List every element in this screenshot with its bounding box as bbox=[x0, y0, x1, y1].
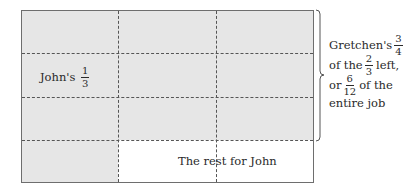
fraction-three-fourths: 3 4 bbox=[394, 34, 402, 57]
johns-third-label: John's 1 3 bbox=[40, 66, 89, 89]
grid-line-horizontal-2 bbox=[22, 97, 313, 98]
grid-line-horizontal-3 bbox=[22, 140, 313, 141]
johns-label-text: John's bbox=[40, 70, 75, 84]
gretchen-annotation: Gretchen's 3 4 of the 2 3 left, or 6 12 … bbox=[329, 38, 403, 110]
grid-line-vertical-1 bbox=[118, 11, 119, 182]
rest-for-john-label: The rest for John bbox=[178, 156, 277, 168]
fraction-one-third: 1 3 bbox=[81, 66, 89, 89]
curly-brace-icon bbox=[315, 9, 327, 142]
fraction-two-thirds: 2 3 bbox=[365, 54, 373, 77]
fraction-six-twelfths: 6 12 bbox=[343, 74, 356, 97]
grid-line-horizontal-1 bbox=[22, 53, 313, 54]
